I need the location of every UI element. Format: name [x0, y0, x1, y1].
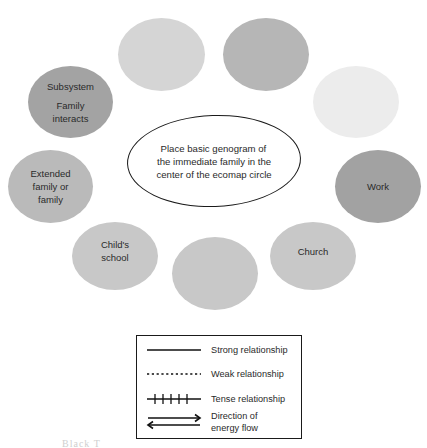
childs-school-line-1: Child's	[101, 238, 129, 251]
figure-caption-fragment: Black T	[62, 438, 101, 448]
center-line-2: the immediate family in the	[157, 155, 271, 168]
system-circle-church: Church	[270, 222, 356, 290]
system-circle-extended-family: Extended family or family	[8, 150, 93, 223]
work-label: Work	[367, 180, 389, 193]
system-circle-subsystem: Subsystem Family interacts	[28, 66, 113, 138]
extended-family-line-2: family or	[33, 180, 69, 193]
extended-family-line-1: Extended	[30, 167, 70, 180]
dotted-line-icon	[145, 367, 203, 381]
legend-row-weak: Weak relationship	[137, 367, 301, 381]
center-line-1: Place basic genogram of	[161, 142, 267, 155]
legend-box: Strong relationship Weak relationship Te…	[136, 335, 302, 439]
subsystem-line-2: interacts	[53, 112, 89, 125]
legend-row-energy: Direction of energy flow	[137, 410, 301, 434]
system-circle-top-right	[223, 18, 309, 91]
legend-row-strong: Strong relationship	[137, 343, 301, 357]
subsystem-line-1: Family	[57, 99, 85, 112]
legend-label-weak: Weak relationship	[211, 368, 284, 380]
system-circle-right-upper	[313, 66, 399, 138]
legend-label-strong: Strong relationship	[211, 344, 288, 356]
church-label: Church	[298, 245, 329, 258]
extended-family-line-3: family	[38, 193, 63, 206]
legend-label-energy-line-1: Direction of	[211, 410, 258, 422]
legend-label-energy: Direction of energy flow	[211, 410, 258, 434]
legend-label-energy-line-2: energy flow	[211, 422, 258, 434]
center-line-3: center of the ecomap circle	[157, 167, 272, 180]
hatched-line-icon	[145, 392, 203, 406]
legend-label-tense: Tense relationship	[211, 393, 285, 405]
system-circle-top-left	[118, 18, 205, 91]
system-circle-childs-school: Child's school	[72, 222, 158, 290]
solid-line-icon	[145, 343, 203, 357]
subsystem-title: Subsystem	[47, 80, 94, 93]
system-circle-work: Work	[335, 150, 421, 223]
double-arrow-icon	[145, 410, 203, 434]
center-genogram-ellipse: Place basic genogram of the immediate fa…	[125, 112, 302, 210]
system-circle-bottom-center	[172, 237, 258, 310]
childs-school-line-2: school	[101, 251, 128, 264]
legend-row-tense: Tense relationship	[137, 392, 301, 406]
